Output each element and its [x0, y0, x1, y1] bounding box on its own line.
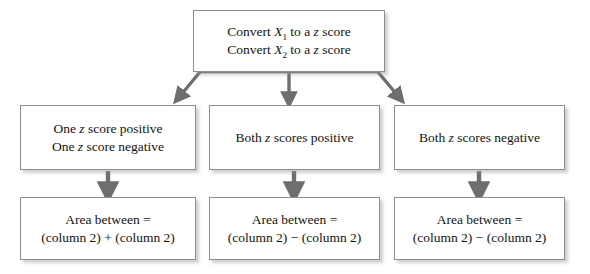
flowchart-diagram: Convert X1 to a z score Convert X2 to a …: [0, 0, 590, 274]
convert-line-1: Convert X1 to a z score: [227, 23, 350, 41]
result-box-area-difference-positive: Area between = (column 2) − (column 2): [209, 197, 380, 260]
result-box-area-difference-negative: Area between = (column 2) − (column 2): [394, 197, 565, 260]
arrow-top-to-both-negative: [378, 72, 398, 96]
condition-line-2: One z score negative: [52, 138, 164, 156]
result-line-2: (column 2) − (column 2): [413, 229, 547, 247]
condition-line-1: Both z scores positive: [235, 129, 353, 147]
result-line-1: Area between =: [252, 211, 338, 229]
condition-box-both-negative: Both z scores negative: [394, 105, 565, 170]
arrow-top-to-mixed: [180, 72, 200, 96]
result-line-2: (column 2) − (column 2): [228, 229, 362, 247]
condition-box-mixed-signs: One z score positive One z score negativ…: [20, 105, 196, 170]
condition-box-both-positive: Both z scores positive: [209, 105, 380, 170]
condition-line-1: Both z scores negative: [419, 129, 540, 147]
convert-line-2: Convert X2 to a z score: [227, 41, 350, 59]
result-line-1: Area between =: [65, 211, 151, 229]
result-line-2: (column 2) + (column 2): [41, 229, 175, 247]
condition-line-1: One z score positive: [53, 120, 162, 138]
result-line-1: Area between =: [437, 211, 523, 229]
convert-to-z-score-box: Convert X1 to a z score Convert X2 to a …: [193, 10, 385, 72]
result-box-area-sum: Area between = (column 2) + (column 2): [20, 197, 196, 260]
